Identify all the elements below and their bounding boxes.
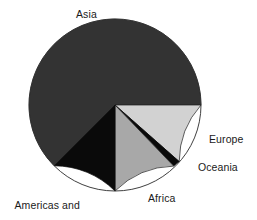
pie-label-asia: Asia [76,8,97,21]
pie-label-americas-line1: Americas and [15,199,80,211]
pie-label-oceania: Oceania [198,161,238,174]
pie-label-europe: Europe [209,133,243,146]
pie-label-americas: Americas and the Caribbean [3,186,80,220]
pie-label-africa: Africa [148,192,175,205]
pie-chart: Asia Europe Oceania Africa Americas and … [0,0,257,220]
